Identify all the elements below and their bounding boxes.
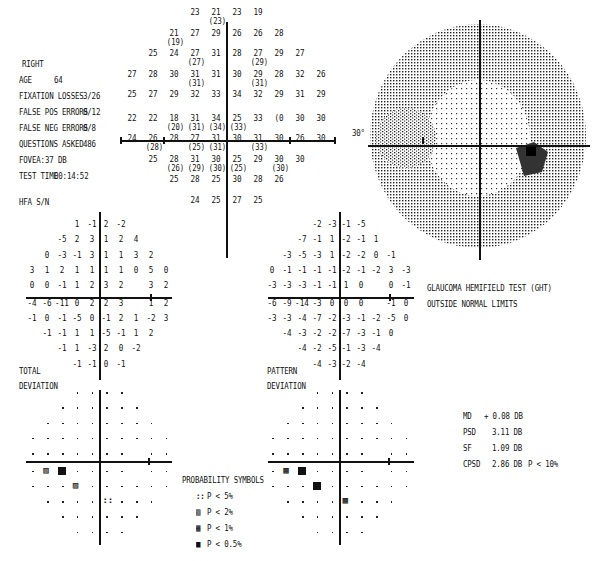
deviation-value: -1 — [339, 343, 353, 353]
probability-dot — [77, 516, 79, 518]
probability-dot — [317, 407, 319, 409]
deviation-value: -1 — [324, 280, 338, 290]
probability-dot — [62, 407, 64, 409]
probability-dot — [166, 453, 168, 455]
threshold-value: 27 — [229, 195, 243, 205]
probability-dot — [121, 392, 123, 394]
probability-dot — [106, 532, 108, 534]
deviation-value: -4 — [310, 359, 324, 369]
deviation-value: -2 — [310, 328, 324, 338]
threshold-value: 31 — [292, 89, 306, 99]
threshold-repeat-value: (20) — [166, 123, 180, 132]
probability-p05-symbol — [58, 467, 66, 475]
false-neg-label: FALSE NEG ERRORS — [19, 122, 88, 133]
probability-dot — [151, 501, 153, 503]
pd-prob-horizontal-axis — [268, 461, 414, 463]
deviation-value: -7 — [295, 234, 309, 244]
false-pos-value: 0/12 — [83, 106, 100, 117]
deviation-value: -1 — [55, 328, 69, 338]
deviation-value: -3 — [265, 313, 279, 323]
ght-result: OUTSIDE NORMAL LIMITS — [427, 298, 517, 309]
deviation-value: -5 — [295, 250, 309, 260]
threshold-value: 26 — [313, 69, 327, 79]
deviation-value: -1 — [398, 280, 412, 290]
deviation-value: -1 — [114, 359, 128, 369]
deviation-value: -4 — [25, 298, 39, 308]
threshold-value: 33 — [208, 89, 222, 99]
deviation-value: 3 — [84, 250, 98, 260]
probability-p5-symbol: :: — [102, 496, 113, 505]
deviation-value: -2 — [339, 250, 353, 260]
probability-dot — [121, 516, 123, 518]
probability-dot — [287, 486, 289, 488]
threshold-value: 28 — [166, 133, 180, 143]
probability-dot — [361, 438, 363, 440]
threshold-value: 29 — [250, 154, 264, 164]
deviation-value: 2 — [84, 280, 98, 290]
probability-dot — [406, 486, 408, 488]
threshold-value: 30 — [313, 133, 327, 143]
threshold-repeat-value: (27) — [187, 58, 201, 67]
deviation-value: 2 — [70, 234, 84, 244]
threshold-repeat-value: (29) — [187, 164, 201, 173]
legend-symbol-icon: :: — [196, 490, 205, 501]
axis-tick — [150, 294, 152, 301]
deviation-value: 1 — [114, 265, 128, 275]
threshold-value: 32 — [187, 89, 201, 99]
legend-symbol-icon: ▨ — [196, 506, 200, 517]
probability-dot — [136, 501, 138, 503]
threshold-value: 25(33) — [229, 113, 243, 132]
deviation-value: -1 — [354, 234, 368, 244]
questions-value: 486 — [83, 138, 96, 149]
probability-dot — [332, 516, 334, 518]
threshold-value: 28 — [271, 69, 285, 79]
probability-dot — [136, 407, 138, 409]
threshold-value: 31(29) — [187, 154, 201, 173]
probability-dot — [302, 516, 304, 518]
probability-dot — [376, 501, 378, 503]
deviation-value: -1 — [354, 313, 368, 323]
threshold-repeat-value: (31) — [250, 79, 264, 88]
deviation-value: 0 — [25, 280, 39, 290]
threshold-value: 25 — [145, 154, 159, 164]
index-probability: P < 10% — [528, 458, 558, 469]
probability-dot — [346, 486, 348, 488]
deviation-value: 0 — [369, 250, 383, 260]
deviation-value: -1 — [354, 265, 368, 275]
deviation-value: -1 — [295, 265, 309, 275]
probability-dot — [391, 501, 393, 503]
pattern-deviation-label-2: DEVIATION — [267, 380, 306, 391]
deviation-value: 3 — [114, 298, 128, 308]
threshold-value: 26 — [271, 174, 285, 184]
probability-dot — [361, 392, 363, 394]
threshold-value: 30 — [229, 69, 243, 79]
threshold-value: 27 — [292, 48, 306, 58]
deviation-value: 0 — [384, 328, 398, 338]
deviation-value: -1 — [384, 298, 398, 308]
probability-dot — [302, 486, 304, 488]
threshold-value: (0 — [271, 113, 285, 123]
threshold-value: 29(31) — [250, 69, 264, 88]
deviation-value: -14 — [295, 298, 309, 308]
threshold-value: 28 — [229, 48, 243, 58]
probability-dot — [332, 423, 334, 425]
probability-dot — [272, 471, 274, 473]
threshold-value: 27 — [187, 28, 201, 38]
threshold-value: 31(31) — [187, 113, 201, 132]
deviation-value: -3 — [280, 280, 294, 290]
deviation-value: 2 — [84, 298, 98, 308]
threshold-value: 30 — [313, 113, 327, 123]
deviation-value: -1 — [55, 313, 69, 323]
deviation-value: -1 — [384, 250, 398, 260]
deviation-value: 1 — [99, 265, 113, 275]
probability-dot — [92, 438, 94, 440]
deviation-value: 0 — [265, 265, 279, 275]
index-label: CPSD — [463, 458, 480, 469]
probability-dot — [272, 486, 274, 488]
probability-dot — [406, 438, 408, 440]
threshold-repeat-value: (33) — [250, 143, 264, 152]
deviation-value: 2 — [144, 250, 158, 260]
deviation-value: -3 — [324, 219, 338, 229]
deviation-value: -4 — [295, 313, 309, 323]
threshold-value: 25 — [145, 48, 159, 58]
